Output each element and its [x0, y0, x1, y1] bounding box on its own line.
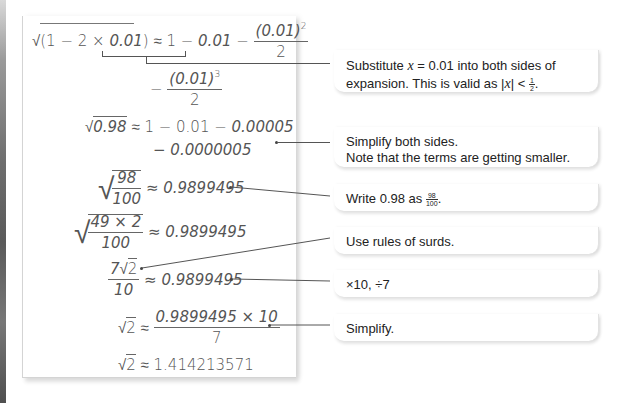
rhs-value: ≈ 0.9899495	[139, 271, 242, 289]
callout-simplify: Simplify.	[334, 314, 599, 341]
radicand: 2	[126, 354, 136, 374]
working-line-2: − (0.01)3 2	[150, 70, 222, 108]
coefficient: 7	[110, 260, 120, 278]
radicand: 0.98	[93, 116, 126, 136]
rhs-x-value: 0.01	[198, 32, 231, 50]
text: Simplify.	[346, 321, 394, 336]
sqrt-symbol: √	[118, 319, 126, 337]
minus-sign: −	[231, 32, 253, 50]
callout-write-fraction: Write 0.98 as 98100.	[334, 184, 599, 211]
text: = 0.01 into both sides of	[414, 58, 556, 73]
frac-num: (0.01)	[256, 22, 301, 40]
callout-multiply-divide: ×10, ÷7	[334, 270, 599, 297]
radicand: 2	[128, 258, 138, 278]
exponent: 3	[214, 69, 220, 79]
frac-den: 100	[88, 233, 143, 251]
result-value: ≈ 1.414213571	[136, 356, 254, 374]
rhs-term: − 0.0000005	[153, 141, 251, 159]
frac-den: 2	[167, 90, 222, 108]
bracket-stem	[146, 56, 147, 63]
text: Use rules of surds.	[346, 234, 454, 249]
text: ×10, ÷7	[346, 277, 390, 292]
frac-num: 0.9899495 × 10	[154, 310, 280, 328]
exponent: 2	[301, 21, 307, 31]
text: .	[535, 76, 539, 91]
frac-den: 100	[426, 200, 438, 207]
lhs-x-value: 0.01	[109, 32, 142, 50]
text: | <	[511, 76, 529, 91]
working-line-5: √ 98 100 ≈ 0.9899495	[98, 170, 244, 207]
sqrt-symbol: √	[120, 260, 128, 278]
frac-den: 10	[108, 280, 139, 298]
working-line-9: √2 ≈ 1.414213571	[118, 358, 254, 373]
frac-den: 7	[154, 328, 280, 346]
minus-sign: −	[150, 80, 167, 98]
frac-num: 98	[112, 171, 141, 189]
connector-line-2	[277, 142, 330, 143]
frac-den: 100	[112, 189, 141, 207]
rhs-expression: ≈ 1 − 0.01 −	[127, 118, 232, 136]
callout-line: Note that the terms are getting smaller.	[346, 150, 588, 166]
sqrt-vinculum	[40, 23, 134, 24]
connector-line-1	[146, 63, 330, 64]
rhs-value: ≈ 0.9899495	[143, 223, 246, 241]
callout-line: Simplify both sides.	[346, 134, 588, 150]
rhs-fraction: 0.9899495 × 10 7	[154, 310, 280, 346]
callout-line: expansion. This is valid as |x| < 12.	[346, 75, 588, 93]
lhs-expression: √(1 − 2 ×	[32, 32, 109, 50]
approx-sign: ≈ 1 −	[149, 32, 198, 50]
rhs-term: 0.00005	[232, 118, 294, 136]
callout-simplify-both: Simplify both sides. Note that the terms…	[334, 127, 599, 167]
callout-substitute: Substitute x = 0.01 into both sides of e…	[334, 50, 599, 92]
connector-dot-3	[229, 186, 232, 189]
connector-dot-4	[140, 267, 143, 270]
text: Substitute	[346, 58, 407, 73]
frac-num: 49 × 2	[88, 215, 143, 233]
working-line-4: − 0.0000005	[153, 143, 251, 158]
approx-sign: ≈	[136, 319, 154, 337]
working-line-7: 7√2 10 ≈ 0.9899495	[108, 262, 243, 298]
text: expansion. This is valid as |	[346, 76, 505, 91]
frac-den: 2	[254, 42, 309, 60]
connector-dot-5	[230, 278, 233, 281]
text: .	[438, 191, 442, 206]
radicand-fraction: 98 100	[112, 170, 141, 207]
fraction-square-term: (0.01)2 2	[254, 22, 309, 60]
fraction-98-100: 98100	[426, 192, 438, 207]
working-line-3: √0.98 ≈ 1 − 0.01 − 0.00005	[85, 120, 294, 135]
substitution-bracket	[102, 51, 186, 57]
working-line-8: √2 ≈ 0.9899495 × 10 7	[118, 310, 280, 346]
page-edge-texture	[0, 0, 6, 403]
working-line-6: √ 49 × 2 100 ≈ 0.9899495	[74, 214, 246, 251]
frac-num: (0.01)	[169, 70, 214, 88]
callout-line: Substitute x = 0.01 into both sides of	[346, 57, 588, 75]
sqrt-symbol: √	[118, 356, 126, 374]
radicand: 2	[126, 317, 136, 337]
frac-num: 98	[426, 192, 438, 200]
text: Write 0.98 as	[346, 191, 426, 206]
lhs-fraction: 7√2 10	[108, 262, 139, 298]
fraction-cube-term: (0.01)3 2	[167, 70, 222, 108]
sqrt-symbol: √	[85, 118, 93, 136]
callout-rules-of-surds: Use rules of surds.	[334, 227, 599, 254]
connector-dot-6	[268, 324, 271, 327]
radicand-fraction: 49 × 2 100	[88, 214, 143, 251]
